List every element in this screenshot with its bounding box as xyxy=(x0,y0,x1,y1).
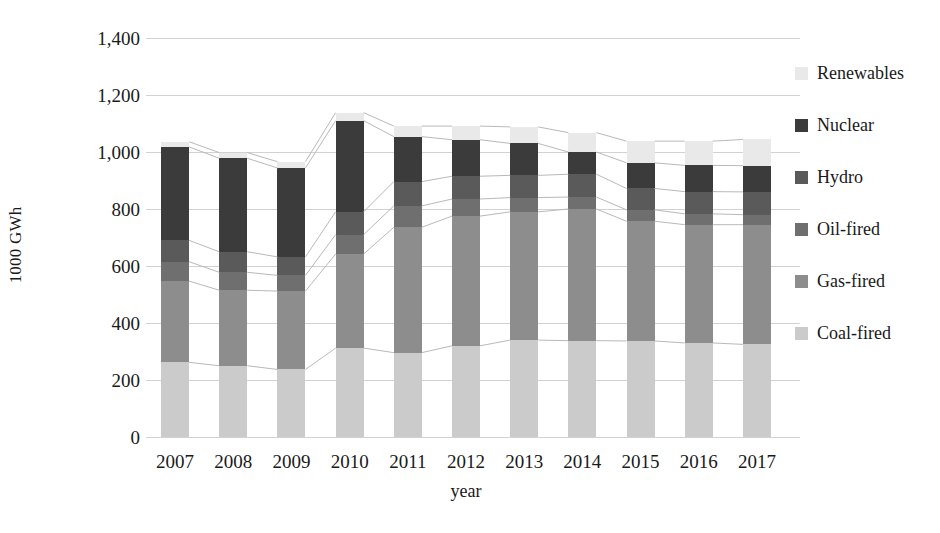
connector-line xyxy=(305,113,335,162)
bar-segment xyxy=(336,212,364,235)
connector-line xyxy=(364,113,394,126)
bar-segment xyxy=(627,341,655,437)
x-tick-label: 2008 xyxy=(214,451,252,473)
connector-line xyxy=(713,214,743,215)
connector-line xyxy=(189,240,219,251)
bar-segment xyxy=(743,139,771,165)
connector-line xyxy=(655,210,685,214)
legend-item[interactable]: Renewables xyxy=(795,64,904,82)
connector-line xyxy=(305,121,335,168)
bar-segment xyxy=(510,340,538,437)
legend-item-label: Oil-fired xyxy=(817,220,880,238)
bar-segment xyxy=(685,343,713,437)
bar-segment xyxy=(277,168,305,257)
connector-line xyxy=(713,343,743,344)
connector-line xyxy=(247,290,277,291)
legend-item[interactable]: Coal-fired xyxy=(795,324,891,342)
connector-line xyxy=(713,139,743,141)
bar-segment xyxy=(743,215,771,225)
y-tick-label: 400 xyxy=(56,314,140,333)
connector-line xyxy=(422,346,452,353)
bar-segment xyxy=(394,126,422,137)
bar-segment xyxy=(394,227,422,352)
bar-segment xyxy=(627,163,655,189)
bar-segment xyxy=(219,153,247,159)
x-tick-label: 2017 xyxy=(738,451,776,473)
y-tick-label: 1,400 xyxy=(56,29,140,48)
x-tick-label: 2011 xyxy=(389,451,426,473)
connector-line xyxy=(364,182,394,212)
y-axis-title: 1000 GWh xyxy=(6,175,26,315)
gridline xyxy=(146,95,800,96)
bar-segment xyxy=(510,198,538,212)
bar-segment xyxy=(568,197,596,209)
legend-swatch-icon xyxy=(795,327,808,340)
x-tick-label: 2009 xyxy=(272,451,310,473)
bar-segment xyxy=(394,137,422,182)
x-tick-label: 2012 xyxy=(447,451,485,473)
bar-segment xyxy=(161,147,189,240)
bar-segment xyxy=(336,113,364,121)
connector-line xyxy=(247,153,277,162)
y-tick-label: 800 xyxy=(56,200,140,219)
x-tick-label: 2016 xyxy=(680,451,718,473)
x-tick-label: 2014 xyxy=(563,451,601,473)
bar-segment xyxy=(277,257,305,276)
bar-segment xyxy=(219,158,247,251)
connector-line xyxy=(247,366,277,370)
bar-segment xyxy=(277,291,305,369)
bar-segment xyxy=(510,127,538,144)
bar-segment xyxy=(627,141,655,163)
bar-segment xyxy=(452,126,480,140)
connector-line xyxy=(655,188,685,191)
bar-segment xyxy=(510,143,538,175)
x-tick-label: 2010 xyxy=(331,451,369,473)
bar-segment xyxy=(743,192,771,215)
bar-segment xyxy=(161,281,189,362)
connector-line xyxy=(247,158,277,168)
legend-item[interactable]: Gas-fired xyxy=(795,272,885,290)
connector-line xyxy=(189,281,219,290)
y-tick-label: 600 xyxy=(56,257,140,276)
bar-segment xyxy=(161,240,189,261)
connector-line xyxy=(596,209,626,221)
bar-segment xyxy=(452,199,480,216)
connector-line xyxy=(596,152,626,163)
legend-item-label: Nuclear xyxy=(817,116,874,134)
bar-segment xyxy=(452,140,480,176)
connector-line xyxy=(189,142,219,153)
connector-line xyxy=(189,362,219,365)
x-tick-label: 2007 xyxy=(156,451,194,473)
connector-line xyxy=(422,216,452,227)
legend-item[interactable]: Oil-fired xyxy=(795,220,880,238)
legend-item-label: Coal-fired xyxy=(817,324,891,342)
bar-segment xyxy=(219,366,247,437)
bar-segment xyxy=(277,275,305,291)
bar-segment xyxy=(219,272,247,290)
gridline xyxy=(146,437,800,438)
bar-segment xyxy=(277,162,305,168)
y-axis-tick-labels: 02004006008001,0001,2001,400 xyxy=(56,0,140,533)
y-tick-label: 1,200 xyxy=(56,86,140,105)
connector-line xyxy=(305,254,335,291)
bar-segment xyxy=(685,225,713,343)
y-tick-label: 1,000 xyxy=(56,143,140,162)
bar-segment xyxy=(161,362,189,437)
connector-line xyxy=(655,221,685,224)
bar-segment xyxy=(568,341,596,437)
legend-item[interactable]: Nuclear xyxy=(795,116,874,134)
connector-line xyxy=(364,348,394,353)
y-tick-label: 0 xyxy=(56,428,140,447)
legend-item-label: Renewables xyxy=(817,64,904,82)
connector-line xyxy=(596,174,626,188)
bar-segment xyxy=(627,188,655,209)
bar-segment xyxy=(336,254,364,348)
connector-line xyxy=(538,197,568,198)
connector-line xyxy=(480,175,510,176)
bar-segment xyxy=(277,369,305,437)
legend-item[interactable]: Hydro xyxy=(795,168,863,186)
bar-segment xyxy=(743,225,771,345)
bar-segment xyxy=(627,210,655,221)
bar-segment xyxy=(685,214,713,225)
connector-line xyxy=(364,206,394,235)
